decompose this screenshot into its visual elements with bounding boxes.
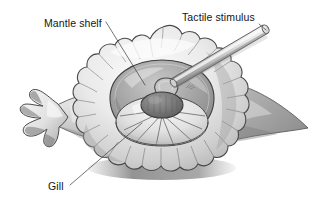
label-text-mantle-shelf: Mantle shelf (44, 17, 102, 29)
label-text-gill: Gill (48, 180, 64, 192)
label-text-tactile-stimulus: Tactile stimulus (182, 11, 255, 23)
aplysia-anatomy-illustration: Mantle shelf Tactile stimulus Gill (0, 0, 321, 201)
figure-container: Mantle shelf Tactile stimulus Gill (0, 0, 321, 201)
